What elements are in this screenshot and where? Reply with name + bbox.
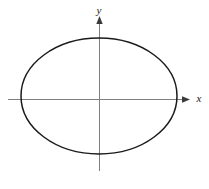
y-axis-arrow-icon <box>96 16 102 24</box>
x-axis-arrow-icon <box>182 96 190 102</box>
y-axis-label: y <box>96 4 102 16</box>
ellipse-figure: y x <box>0 0 209 189</box>
coordinate-plane-svg: y x <box>0 0 209 189</box>
x-axis-label: x <box>196 92 202 104</box>
